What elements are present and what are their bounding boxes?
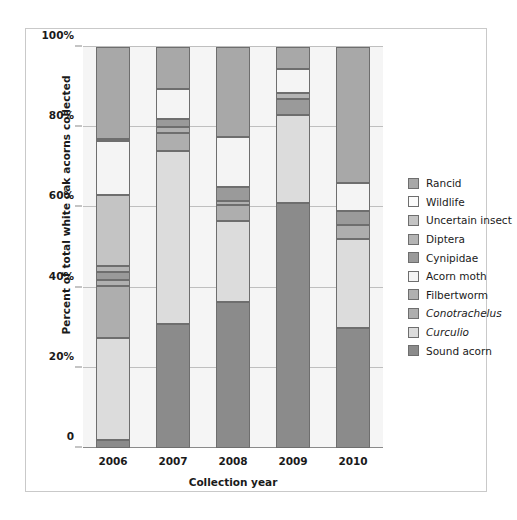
stacked-bar[interactable]: 2009: [276, 47, 310, 448]
x-tick-label: 2006: [98, 455, 127, 467]
legend-item[interactable]: Curculio: [408, 323, 517, 342]
y-tick-mark: [75, 206, 82, 207]
bar-segment[interactable]: [216, 137, 250, 187]
y-tick-mark: [75, 447, 82, 448]
legend-swatch-icon: [408, 196, 419, 207]
bar-segment[interactable]: [156, 324, 190, 448]
legend-item[interactable]: Acorn moth: [408, 267, 517, 286]
bar-segment[interactable]: [216, 187, 250, 201]
bar-segment[interactable]: [336, 328, 370, 448]
bar-segment[interactable]: [276, 93, 310, 99]
bar-segment[interactable]: [96, 139, 130, 141]
y-tick-label: 20%: [49, 350, 74, 362]
legend-swatch-icon: [408, 345, 419, 356]
y-tick-label: 0: [67, 430, 74, 442]
y-tick-label: 40%: [49, 270, 74, 282]
y-tick-mark: [75, 286, 82, 287]
bar-segment[interactable]: [96, 195, 130, 265]
bar-segment[interactable]: [336, 211, 370, 225]
bar-segment[interactable]: [96, 286, 130, 338]
bar-segment[interactable]: [276, 99, 310, 115]
bar-segment[interactable]: [216, 221, 250, 301]
legend-label: Filbertworm: [426, 289, 488, 301]
y-tick-label: 80%: [49, 109, 74, 121]
bar-segment[interactable]: [216, 302, 250, 448]
x-tick-label: 2010: [338, 455, 367, 467]
legend-label: Cynipidae: [426, 252, 478, 264]
legend-item[interactable]: Uncertain insect: [408, 211, 517, 230]
bar-segment[interactable]: [96, 47, 130, 139]
bar-segment[interactable]: [156, 119, 190, 127]
legend-label: Acorn moth: [426, 270, 487, 282]
bar-segment[interactable]: [216, 47, 250, 137]
legend-label: Diptera: [426, 233, 465, 245]
bar-segment[interactable]: [156, 89, 190, 119]
bar-segment[interactable]: [336, 239, 370, 327]
plot-area: 020%40%60%80%100% 20062007200820092010: [83, 47, 383, 448]
legend-label: Conotrachelus: [426, 307, 502, 319]
bar-segment[interactable]: [276, 69, 310, 93]
bar-segment[interactable]: [156, 133, 190, 151]
stacked-bar[interactable]: 2010: [336, 47, 370, 448]
legend-item[interactable]: Rancid: [408, 174, 517, 193]
legend-label: Sound acorn: [426, 345, 492, 357]
y-tick-mark: [75, 126, 82, 127]
legend-swatch-icon: [408, 289, 419, 300]
legend-swatch-icon: [408, 327, 419, 338]
bar-segment[interactable]: [96, 440, 130, 448]
x-tick-label: 2008: [218, 455, 247, 467]
legend-swatch-icon: [408, 308, 419, 319]
bar-segment[interactable]: [336, 47, 370, 183]
y-tick-mark: [75, 366, 82, 367]
y-tick-label: 60%: [49, 189, 74, 201]
legend-label: Uncertain insect: [426, 214, 512, 226]
bar-segment[interactable]: [336, 225, 370, 239]
bar-segment[interactable]: [96, 141, 130, 195]
legend-swatch-icon: [408, 215, 419, 226]
y-tick-label: 100%: [42, 29, 74, 41]
legend-label: Curculio: [426, 326, 469, 338]
stacked-bar[interactable]: 2006: [96, 47, 130, 448]
bar-segment[interactable]: [216, 205, 250, 221]
stacked-bar[interactable]: 2008: [216, 47, 250, 448]
bar-segment[interactable]: [96, 280, 130, 286]
legend-item[interactable]: Conotrachelus: [408, 304, 517, 323]
bar-segment[interactable]: [96, 266, 130, 272]
bar-segment[interactable]: [96, 272, 130, 280]
legend-swatch-icon: [408, 252, 419, 263]
bar-segment[interactable]: [276, 47, 310, 69]
bar-segment[interactable]: [156, 151, 190, 323]
x-tick-label: 2009: [278, 455, 307, 467]
legend-item[interactable]: Diptera: [408, 230, 517, 249]
legend-item[interactable]: Filbertworm: [408, 286, 517, 305]
legend-swatch-icon: [408, 178, 419, 189]
legend-swatch-icon: [408, 271, 419, 282]
x-axis-title: Collection year: [83, 476, 383, 488]
legend-label: Rancid: [426, 177, 462, 189]
bar-segment[interactable]: [336, 183, 370, 211]
figure-frame: Percent of total white oak acorns collec…: [25, 28, 487, 492]
bar-segment[interactable]: [216, 201, 250, 205]
bar-segment[interactable]: [156, 47, 190, 89]
legend-swatch-icon: [408, 234, 419, 245]
bar-segment[interactable]: [96, 338, 130, 440]
stacked-bar[interactable]: 2007: [156, 47, 190, 448]
y-tick-mark: [75, 46, 82, 47]
legend-item[interactable]: Wildlife: [408, 193, 517, 212]
bar-segment[interactable]: [156, 127, 190, 133]
legend-item[interactable]: Sound acorn: [408, 341, 517, 360]
bar-segment[interactable]: [276, 115, 310, 203]
legend-label: Wildlife: [426, 196, 465, 208]
x-tick-label: 2007: [158, 455, 187, 467]
bar-segment[interactable]: [276, 203, 310, 448]
legend: RancidWildlifeUncertain insectDipteraCyn…: [408, 174, 517, 360]
legend-item[interactable]: Cynipidae: [408, 248, 517, 267]
